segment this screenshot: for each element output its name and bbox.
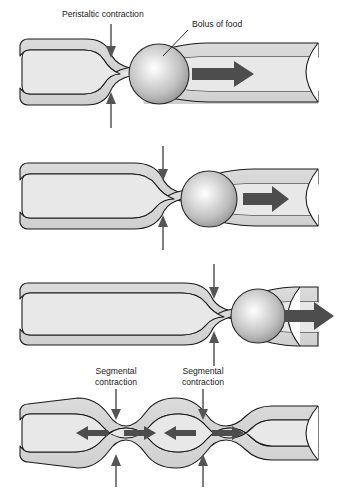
tube-lumen-proximal xyxy=(22,293,224,335)
diagram-canvas: Peristaltic contraction Bolus of food xyxy=(0,0,338,491)
bolus-sphere xyxy=(181,171,237,227)
bolus-sphere xyxy=(129,44,189,104)
digestive-motility-diagram: Peristaltic contraction Bolus of food xyxy=(0,0,338,491)
label-segmental-contraction-left-line1: Segmental xyxy=(95,366,136,376)
label-bolus-of-food: Bolus of food xyxy=(192,19,242,29)
bolus-sphere xyxy=(231,289,285,343)
label-segmental-contraction-left-line2: contraction xyxy=(95,377,137,387)
label-segmental-contraction-right-line2: contraction xyxy=(182,377,224,387)
label-segmental-contraction-right-line1: Segmental xyxy=(182,366,223,376)
tube-lumen-proximal xyxy=(22,174,174,218)
label-peristaltic-contraction: Peristaltic contraction xyxy=(62,9,144,19)
